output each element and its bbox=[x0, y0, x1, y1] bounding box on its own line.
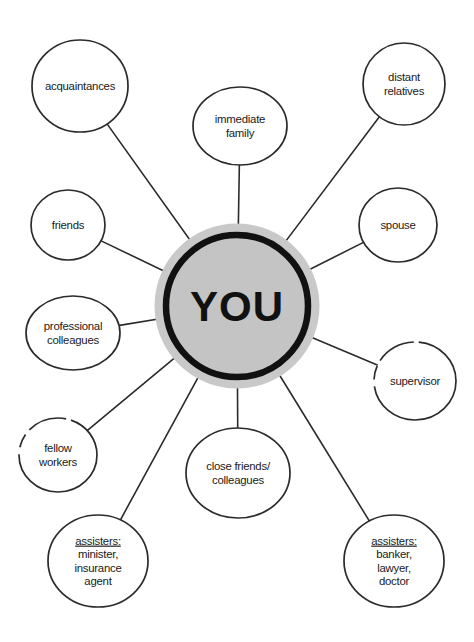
network-diagram: YOU acquaintancesimmediatefamilydistantr… bbox=[0, 0, 474, 642]
connection-line-assisters-minister bbox=[120, 367, 204, 521]
node-immediate-family[interactable]: immediatefamily bbox=[193, 87, 287, 165]
center-node-group[interactable]: YOU bbox=[159, 228, 315, 384]
connection-line-assisters-banker bbox=[273, 365, 370, 522]
center-node-label: YOU bbox=[190, 283, 284, 330]
node-distant-relatives[interactable]: distantrelatives bbox=[363, 43, 445, 125]
node-professional-colleagues[interactable]: professionalcolleagues bbox=[26, 296, 120, 370]
node-acquaintances[interactable]: acquaintances bbox=[32, 40, 128, 132]
node-label-spouse: spouse bbox=[380, 219, 415, 231]
node-assisters-minister[interactable]: assisters:minister,insuranceagent bbox=[48, 515, 148, 607]
node-spouse[interactable]: spouse bbox=[359, 188, 437, 262]
node-label-acquaintances: acquaintances bbox=[45, 80, 116, 92]
node-label-supervisor: supervisor bbox=[390, 375, 440, 387]
node-fellow-workers[interactable]: fellowworkers bbox=[19, 418, 97, 492]
node-label-fellow-workers: fellowworkers bbox=[38, 442, 78, 468]
node-assisters-banker[interactable]: assisters:banker,lawyer,doctor bbox=[344, 515, 444, 607]
node-label-distant-relatives: distantrelatives bbox=[384, 71, 425, 97]
node-label-close-friends-colleagues: close friends/colleagues bbox=[206, 460, 271, 486]
node-label-friends: friends bbox=[52, 219, 85, 231]
node-label-professional-colleagues: professionalcolleagues bbox=[44, 320, 102, 346]
node-close-friends-colleagues[interactable]: close friends/colleagues bbox=[186, 428, 290, 518]
connection-line-acquaintances bbox=[107, 123, 197, 250]
node-friends[interactable]: friends bbox=[31, 190, 105, 260]
node-supervisor[interactable]: supervisor bbox=[374, 342, 456, 420]
network-diagram-canvas: YOU acquaintancesimmediatefamilydistantr… bbox=[0, 0, 474, 642]
